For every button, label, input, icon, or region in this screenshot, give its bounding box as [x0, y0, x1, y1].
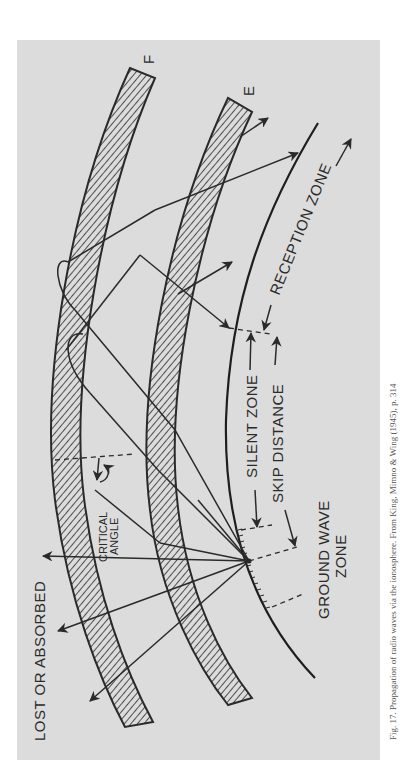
ionosphere-propagation-diagram: F E	[0, 0, 402, 767]
skip-distance-label: SKIP DISTANCE	[269, 384, 286, 503]
figure-caption: Fig. 17. Propagation of radio waves via …	[388, 383, 398, 740]
ground-wave-label-line2: ZONE	[332, 534, 349, 578]
e-layer-label: E	[240, 85, 257, 96]
critical-angle-label-line2: ANGLE	[108, 518, 120, 555]
f-layer-label: F	[140, 54, 157, 64]
ground-wave-label-line1: GROUND WAVE	[315, 500, 332, 619]
lost-or-absorbed-label: LOST OR ABSORBED	[31, 581, 48, 741]
silent-zone-label: SILENT ZONE	[243, 374, 260, 478]
